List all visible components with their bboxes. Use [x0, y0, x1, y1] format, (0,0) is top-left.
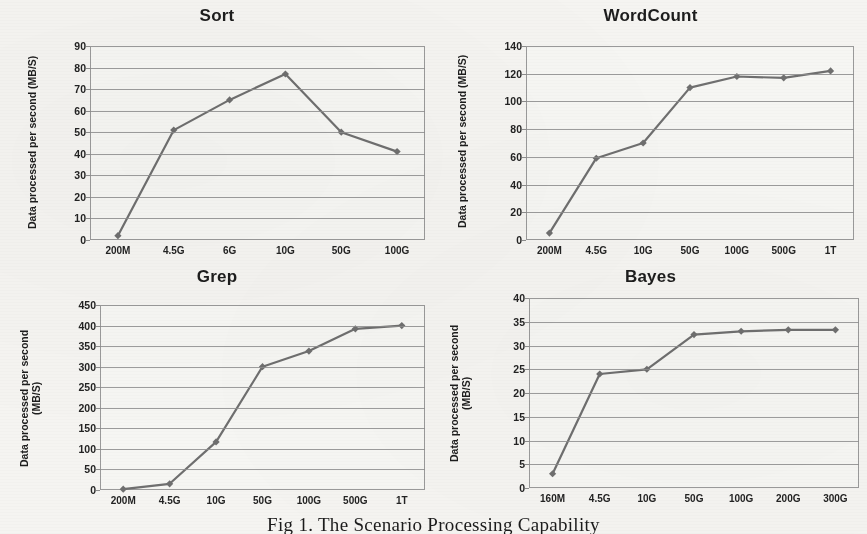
- y-tick-mark: [525, 298, 529, 299]
- y-tick-mark: [86, 240, 90, 241]
- y-axis-label-wordcount: Data processed per second (MB/S): [456, 40, 470, 242]
- plot-area-grep: 050100150200250300350400450200M4.5G10G50…: [100, 305, 425, 490]
- y-tick-mark: [522, 240, 526, 241]
- y-tick-mark: [96, 428, 100, 429]
- figure-caption: Fig 1. The Scenario Processing Capabilit…: [0, 514, 867, 534]
- y-tick-mark: [86, 218, 90, 219]
- gridline: [100, 346, 425, 347]
- x-tick-label: 200M: [105, 245, 130, 256]
- x-tick-label: 6G: [223, 245, 236, 256]
- y-axis-label-grep: Data processed per second (MB/S): [18, 303, 46, 493]
- gridline: [90, 154, 425, 155]
- data-point-marker: [305, 347, 312, 354]
- y-tick-label: 10: [513, 435, 525, 447]
- gridline: [90, 197, 425, 198]
- data-point-marker: [549, 470, 556, 477]
- data-point-marker: [780, 74, 787, 81]
- y-tick-mark: [522, 74, 526, 75]
- x-tick-label: 100G: [385, 245, 409, 256]
- gridline: [529, 346, 859, 347]
- y-tick-label: 0: [90, 484, 96, 496]
- y-tick-label: 20: [74, 191, 86, 203]
- y-tick-label: 50: [74, 126, 86, 138]
- y-tick-label: 100: [504, 95, 522, 107]
- data-point-marker: [120, 486, 127, 493]
- gridline: [526, 212, 854, 213]
- y-tick-mark: [525, 441, 529, 442]
- y-tick-label: 120: [504, 68, 522, 80]
- y-tick-mark: [86, 89, 90, 90]
- y-axis-label-bayes: Data processed per second (MB/S): [448, 295, 476, 491]
- gridline: [100, 326, 425, 327]
- y-tick-mark: [96, 408, 100, 409]
- gridline: [529, 393, 859, 394]
- y-tick-mark: [522, 212, 526, 213]
- x-tick-label: 4.5G: [585, 245, 607, 256]
- series-line-grep: [100, 305, 425, 490]
- y-tick-label: 60: [510, 151, 522, 163]
- data-point-marker: [832, 326, 839, 333]
- x-tick-label: 500G: [343, 495, 367, 506]
- gridline: [100, 449, 425, 450]
- chart-panel-wordcount: WordCount Data processed per second (MB/…: [434, 0, 867, 267]
- y-tick-mark: [86, 154, 90, 155]
- y-tick-mark: [522, 185, 526, 186]
- y-tick-mark: [86, 132, 90, 133]
- x-tick-label: 10G: [634, 245, 653, 256]
- y-tick-label: 90: [74, 40, 86, 52]
- x-tick-label: 100G: [725, 245, 749, 256]
- x-tick-label: 1T: [396, 495, 408, 506]
- gridline: [90, 218, 425, 219]
- chart-title-wordcount: WordCount: [434, 6, 867, 26]
- y-tick-label: 0: [80, 234, 86, 246]
- y-tick-label: 0: [516, 234, 522, 246]
- x-tick-label: 500G: [771, 245, 795, 256]
- gridline: [90, 111, 425, 112]
- y-tick-label: 10: [74, 212, 86, 224]
- y-tick-label: 30: [74, 169, 86, 181]
- x-tick-label: 200M: [111, 495, 136, 506]
- chart-panel-sort: Sort Data processed per second (MB/S) 01…: [0, 0, 434, 267]
- gridline: [100, 469, 425, 470]
- y-tick-label: 60: [74, 105, 86, 117]
- y-tick-mark: [525, 369, 529, 370]
- x-tick-label: 4.5G: [159, 495, 181, 506]
- y-tick-label: 40: [513, 292, 525, 304]
- y-tick-mark: [525, 322, 529, 323]
- x-tick-label: 4.5G: [589, 493, 611, 504]
- gridline: [529, 322, 859, 323]
- y-tick-label: 400: [78, 320, 96, 332]
- y-tick-mark: [86, 175, 90, 176]
- gridline: [529, 464, 859, 465]
- y-tick-label: 140: [504, 40, 522, 52]
- gridline: [526, 101, 854, 102]
- x-tick-label: 10G: [207, 495, 226, 506]
- gridline: [90, 89, 425, 90]
- x-tick-label: 1T: [825, 245, 837, 256]
- chart-title-sort: Sort: [0, 6, 434, 26]
- y-tick-label: 50: [84, 463, 96, 475]
- y-tick-label: 250: [78, 381, 96, 393]
- y-tick-label: 70: [74, 83, 86, 95]
- x-tick-label: 10G: [637, 493, 656, 504]
- y-tick-mark: [522, 157, 526, 158]
- y-tick-mark: [525, 488, 529, 489]
- gridline: [100, 387, 425, 388]
- y-tick-label: 40: [510, 179, 522, 191]
- y-tick-label: 20: [513, 387, 525, 399]
- gridline: [526, 74, 854, 75]
- y-tick-mark: [86, 111, 90, 112]
- y-tick-label: 450: [78, 299, 96, 311]
- chart-panel-grep: Grep Data processed per second (MB/S) 05…: [0, 267, 434, 534]
- gridline: [90, 68, 425, 69]
- y-tick-mark: [96, 449, 100, 450]
- y-tick-label: 100: [78, 443, 96, 455]
- series-polyline: [549, 71, 830, 233]
- y-tick-label: 5: [519, 458, 525, 470]
- chart-grid: Sort Data processed per second (MB/S) 01…: [0, 0, 867, 534]
- y-tick-label: 300: [78, 361, 96, 373]
- y-tick-label: 0: [519, 482, 525, 494]
- x-tick-label: 100G: [297, 495, 321, 506]
- x-tick-label: 50G: [685, 493, 704, 504]
- y-tick-mark: [525, 417, 529, 418]
